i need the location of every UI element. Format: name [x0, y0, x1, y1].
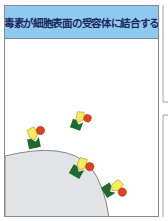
toxin-receptor-complex — [25, 125, 48, 150]
cell-surface — [5, 150, 109, 217]
toxin-receptor-complex — [70, 109, 93, 133]
cell-illustration — [5, 6, 159, 217]
diagram-panel: 毒素が細胞表面の受容体に結合する — [4, 5, 159, 217]
adjacent-panel-edge — [161, 5, 168, 217]
